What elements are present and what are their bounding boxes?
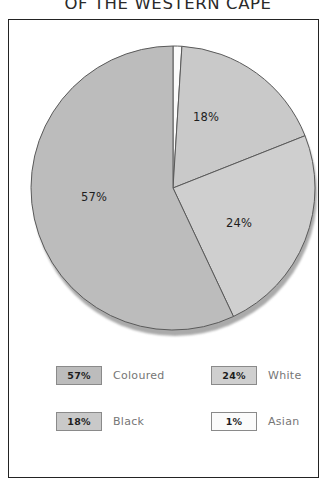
pie-slice-label-white: 24%	[226, 216, 252, 230]
pie-slice-label-black: 18%	[193, 110, 219, 124]
legend-label-coloured: Coloured	[113, 369, 165, 382]
legend-swatch-black: 18%	[56, 412, 102, 431]
legend-swatch-asian: 1%	[211, 412, 257, 431]
legend-swatch-white: 24%	[211, 366, 257, 385]
legend-item-white[interactable]: 24% White	[163, 360, 318, 390]
chart-legend: 57% Coloured 24% White 18% Black 1% Asia…	[8, 360, 319, 460]
legend-item-coloured[interactable]: 57% Coloured	[8, 360, 163, 390]
pie-chart: 18% 24% 57%	[0, 0, 336, 345]
pie-svg	[0, 0, 336, 345]
legend-item-asian[interactable]: 1% Asian	[163, 406, 318, 436]
pie-slice-label-coloured: 57%	[81, 190, 107, 204]
legend-item-black[interactable]: 18% Black	[8, 406, 163, 436]
legend-label-asian: Asian	[268, 415, 300, 428]
legend-swatch-coloured: 57%	[56, 366, 102, 385]
pie-slice-group	[31, 46, 315, 330]
legend-row: 18% Black 1% Asian	[8, 406, 319, 436]
legend-label-white: White	[268, 369, 302, 382]
legend-label-black: Black	[113, 415, 144, 428]
legend-row: 57% Coloured 24% White	[8, 360, 319, 390]
